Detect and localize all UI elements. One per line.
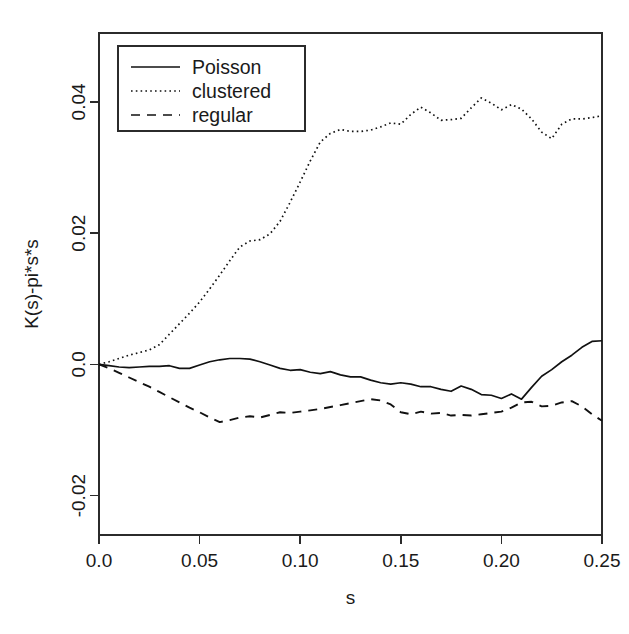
- x-tick-label-1: 0.05: [181, 550, 218, 571]
- legend-label-regular: regular: [192, 104, 253, 126]
- y-tick-label-2: 0.02: [69, 215, 90, 252]
- x-tick-label-0: 0.0: [86, 550, 112, 571]
- y-tick-label-1: 0.0: [69, 351, 90, 377]
- axis-labels-layer: 0.00.050.100.150.200.25-0.020.00.020.04s…: [21, 83, 620, 608]
- y-tick-label-3: 0.04: [69, 83, 90, 120]
- figure-container: 0.00.050.100.150.200.25-0.020.00.020.04s…: [0, 0, 629, 634]
- x-tick-label-3: 0.15: [382, 550, 419, 571]
- x-axis-title: s: [346, 587, 356, 608]
- chart-legend: Poissonclusteredregular: [118, 46, 305, 131]
- chart-canvas: 0.00.050.100.150.200.25-0.020.00.020.04s…: [0, 0, 629, 634]
- legend-label-poisson: Poisson: [192, 56, 261, 78]
- x-tick-label-2: 0.10: [282, 550, 319, 571]
- series-line-poisson: [99, 341, 602, 399]
- series-layer: [99, 98, 602, 422]
- y-tick-label-0: -0.02: [69, 474, 90, 517]
- series-line-clustered: [99, 98, 602, 364]
- y-axis-title: K(s)-pi*s*s: [21, 239, 42, 329]
- x-tick-label-5: 0.25: [584, 550, 621, 571]
- legend-label-clustered: clustered: [192, 80, 271, 102]
- x-tick-label-4: 0.20: [483, 550, 520, 571]
